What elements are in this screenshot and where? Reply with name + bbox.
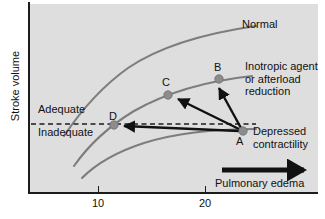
data-point-a	[239, 127, 247, 135]
data-point-c	[164, 91, 172, 99]
point-label-d: D	[109, 110, 117, 122]
data-point-b	[215, 75, 223, 83]
curve-label-normal: Normal	[242, 18, 277, 31]
point-label-a: A	[236, 135, 243, 147]
data-point-d	[110, 121, 118, 129]
x-axis-direction-label: Pulmonary edema	[215, 177, 304, 190]
region-label-adequate: Adequate	[38, 103, 85, 116]
curve-label-depressed: Depressed contractility	[253, 125, 323, 150]
point-label-c: C	[162, 76, 170, 88]
chart-figure: 10 20 Stroke volume Normal	[0, 0, 325, 219]
arrow-a-to-d	[124, 126, 239, 131]
region-label-inadequate: Inadequate	[38, 126, 93, 139]
curve-label-inotropic: Inotropic agent or afterload reduction	[245, 60, 319, 98]
point-label-b: B	[214, 61, 221, 73]
curve-normal	[64, 26, 256, 136]
